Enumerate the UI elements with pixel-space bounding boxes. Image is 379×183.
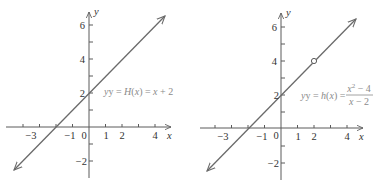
x-tick-label: 1 — [295, 131, 300, 142]
x-tick-label: 0 — [273, 130, 278, 141]
fraction-denominator: x − 2 — [348, 96, 369, 107]
x-tick-label: 2 — [311, 131, 316, 142]
x-tick-label: 4 — [344, 131, 350, 142]
x-tick-label: −1 — [64, 130, 75, 141]
x-axis-label: x — [166, 130, 172, 141]
y-tick-label: 4 — [272, 56, 278, 67]
x-tick-label: −3 — [217, 131, 228, 142]
figure: −3 −1 0 1 2 4 x 6 4 2 −2 y yy = H(x) = x… — [0, 0, 379, 183]
equation-h: yy = h(x) = x2 − 4 x − 2 — [300, 82, 373, 107]
fraction-numerator: x2 − 4 — [346, 82, 371, 94]
y-tick-label: −2 — [76, 156, 87, 167]
y-tick-label: 2 — [80, 88, 85, 99]
y-tick-label: 2 — [274, 90, 279, 101]
x-tick-label: 4 — [152, 130, 158, 141]
right-graph: −3 −1 0 1 2 4 x 6 4 2 −2 y yy = h(x) = x… — [200, 7, 373, 180]
y-tick-label: −2 — [268, 158, 279, 169]
x-tick-label: 2 — [119, 130, 124, 141]
x-tick-label: 1 — [103, 130, 108, 141]
equation-H: yy = H(x) = x + 2 — [103, 86, 173, 98]
y-axis-label: y — [285, 7, 291, 18]
y-axis-label: y — [93, 6, 99, 17]
open-point-hole — [311, 58, 316, 63]
x-tick-label: −1 — [256, 131, 267, 142]
y-tick-label: 6 — [80, 20, 85, 31]
x-axis-label: x — [358, 131, 364, 142]
x-tick-label: −3 — [25, 130, 36, 141]
x-tick-label: 0 — [81, 130, 86, 141]
left-graph: −3 −1 0 1 2 4 x 6 4 2 −2 y yy = H(x) = x… — [6, 6, 173, 178]
y-tick-label: 6 — [272, 22, 277, 33]
svg-text:yy = h(x) =: yy = h(x) = — [300, 90, 346, 102]
y-tick-label: 4 — [80, 54, 86, 65]
